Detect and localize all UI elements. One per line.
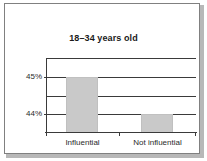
bar-influential — [66, 77, 98, 133]
axis-baseline — [45, 132, 197, 133]
y-tick-mark-44 — [44, 114, 48, 115]
y-tick-label-45: 45% — [14, 72, 42, 81]
x-tick-right — [195, 132, 196, 136]
bar-not-influential — [141, 114, 173, 133]
x-label-not-influential: Not influential — [119, 138, 196, 147]
y-tick-label-44: 44% — [14, 109, 42, 118]
x-label-influential: Influential — [46, 138, 119, 147]
y-tick-mark-45 — [44, 77, 48, 78]
plot-area — [46, 58, 196, 132]
gridline-top — [46, 58, 196, 59]
x-tick-mid — [119, 132, 120, 136]
chart-screenshot: 18–34 years old 45% 44% Influential Not … — [0, 0, 207, 161]
x-tick-left — [46, 132, 47, 136]
chart-title: 18–34 years old — [0, 33, 207, 43]
